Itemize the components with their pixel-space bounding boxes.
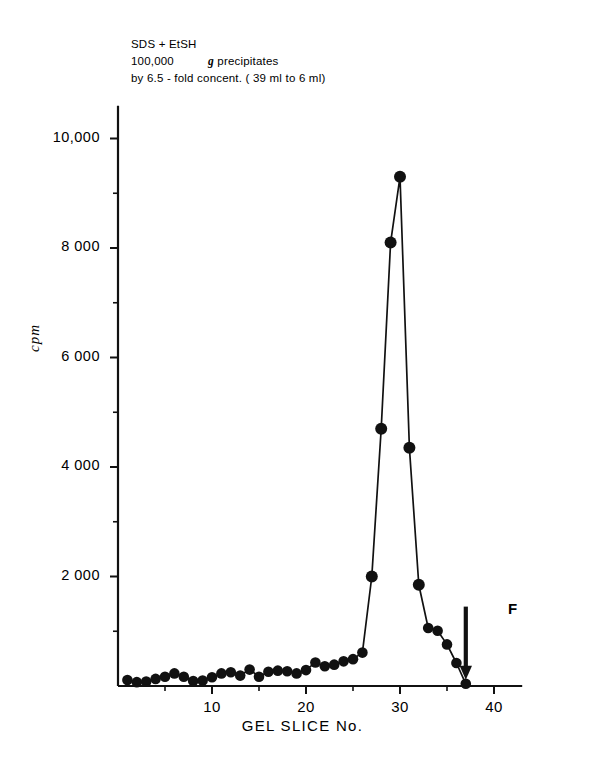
x-axis-title: GEL SLICE No. [0, 717, 605, 734]
data-point [338, 656, 349, 667]
data-point [150, 674, 161, 685]
y-tick-label: 10,000 [0, 129, 100, 145]
data-point [207, 672, 218, 683]
chart-annotation-block: SDS + EtSH 100,000g precipitates by 6.5 … [131, 36, 325, 87]
x-tick-label: 10 [182, 698, 242, 715]
data-point [403, 442, 415, 454]
data-point [188, 676, 199, 687]
x-tick-label: 40 [464, 698, 524, 715]
data-point [179, 671, 190, 682]
data-point [442, 639, 453, 650]
data-point [366, 571, 378, 583]
y-tick-label: 6 000 [0, 348, 100, 364]
annotation-line-3: by 6.5 - fold concent. ( 39 ml to 6 ml) [131, 70, 325, 87]
data-point [132, 677, 143, 688]
annotation-line-2-prefix: 100,000 [131, 55, 174, 67]
data-point [357, 647, 368, 658]
data-point [423, 623, 434, 634]
annotation-line-2-italic-g: g [208, 55, 214, 67]
data-point [282, 666, 293, 677]
data-point [301, 665, 312, 676]
annotation-line-1: SDS + EtSH [131, 36, 325, 53]
data-point [160, 671, 171, 682]
data-point [413, 579, 425, 591]
y-tick-label: 2 000 [0, 567, 100, 583]
data-point [141, 676, 152, 687]
annotation-line-2-suffix: precipitates [217, 55, 278, 67]
front-marker-arrow [460, 607, 472, 680]
data-point [254, 671, 265, 682]
figure-panel: SDS + EtSH 100,000g precipitates by 6.5 … [0, 0, 605, 759]
data-point [291, 668, 302, 679]
front-marker-label: F [508, 600, 518, 617]
data-point [263, 666, 274, 677]
y-tick-label: 8 000 [0, 238, 100, 254]
data-point [310, 657, 321, 668]
data-point [235, 670, 246, 681]
data-point [461, 679, 472, 690]
y-tick-label: 4 000 [0, 457, 100, 473]
data-line [127, 177, 465, 684]
data-point [375, 423, 387, 435]
data-point [385, 237, 397, 249]
x-tick-label: 30 [370, 698, 430, 715]
x-tick-label: 20 [276, 698, 336, 715]
data-point [169, 668, 180, 679]
data-point [432, 625, 443, 636]
data-point [348, 654, 359, 665]
data-point [394, 171, 406, 183]
chart-canvas [0, 0, 605, 759]
data-point [197, 675, 208, 686]
data-point [244, 664, 255, 675]
data-point [226, 667, 237, 678]
annotation-line-2: 100,000g precipitates [131, 53, 325, 70]
data-point [329, 659, 340, 670]
data-point [320, 661, 331, 672]
data-point [273, 665, 284, 676]
data-point [216, 668, 227, 679]
data-point [122, 675, 133, 686]
